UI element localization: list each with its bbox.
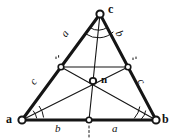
midpoint-ticks (56, 56, 136, 137)
midpoint-markers (58, 64, 131, 123)
side-label-ab-left: b (55, 123, 61, 134)
vertex-a-marker (18, 116, 25, 123)
vertex-b-marker (152, 116, 159, 123)
centroid-label-n: n (101, 74, 107, 85)
midpoint-ab-marker (86, 117, 92, 123)
vertex-label-c: c (108, 3, 113, 15)
midpoint-ac-marker (58, 64, 64, 70)
vertex-label-a: a (6, 113, 12, 125)
triangle-drawing (0, 0, 178, 140)
side-label-ab-right: a (112, 123, 118, 134)
vertex-label-b: b (162, 113, 169, 125)
vertex-c-marker (96, 10, 103, 17)
centroid-marker (90, 78, 96, 84)
tick-mid-bc-icon (133, 57, 136, 60)
midpoint-bc-marker (125, 64, 131, 70)
geometry-figure: a b c n a b c c b a (0, 0, 178, 140)
tick-mid-ac-icon (56, 56, 59, 59)
